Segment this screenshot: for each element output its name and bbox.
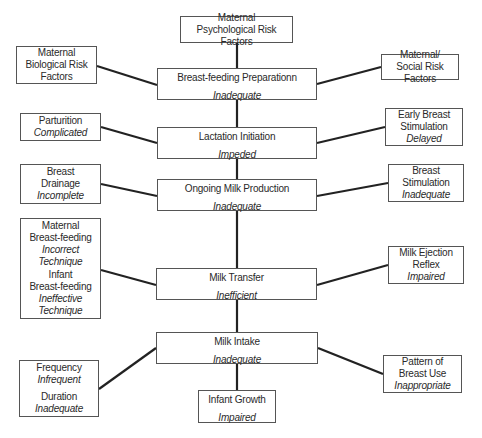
- box-title: Milk Transfer: [209, 272, 264, 284]
- box-label: Early Breast: [398, 109, 450, 121]
- box-title: Ongoing Milk Production: [185, 183, 289, 195]
- box-label: Reflex: [412, 259, 439, 271]
- box-status: Inadequate: [35, 403, 83, 415]
- ongoing-milk-production-box: Ongoing Milk Production Inadequate: [157, 179, 317, 211]
- breastfeeding-technique-box: Maternal Breast-feeding Incorrect Techni…: [20, 218, 101, 319]
- breastfeeding-preparation-box: Breast-feeding Preparationn Inadequate: [157, 68, 317, 100]
- frequency-duration-box: Frequency Infrequent Duration Inadequate: [19, 360, 99, 417]
- box-status: Inadequate: [213, 354, 261, 366]
- box-status: Delayed: [406, 133, 441, 145]
- box-label: Biological Risk: [25, 59, 87, 71]
- box-status: Inefficient: [216, 290, 257, 302]
- box-label: Breast-feeding: [29, 232, 91, 244]
- box-title: Duration: [41, 391, 77, 403]
- box-status: Impeded: [218, 149, 256, 161]
- box-title: Infant Growth: [208, 394, 265, 406]
- box-title: Lactation Initiation: [199, 131, 276, 143]
- box-label: Breast-feeding: [29, 281, 91, 293]
- box-label: Stimulation: [400, 121, 447, 133]
- breast-drainage-box: Breast Drainage Incomplete: [20, 164, 101, 204]
- box-status: Inappropriate: [394, 380, 450, 392]
- box-status: Inadequate: [402, 189, 450, 201]
- box-label: Drainage: [41, 178, 80, 190]
- box-label: Stimulation: [402, 177, 449, 189]
- box-status: Technique: [39, 305, 83, 317]
- box-label: Breast: [47, 166, 75, 178]
- box-label: Milk Ejection: [399, 247, 453, 259]
- breast-stimulation-box: Breast Stimulation Inadequate: [388, 164, 464, 202]
- box-label: Factors: [41, 71, 73, 83]
- box-label: Psychological Risk Factors: [184, 24, 289, 48]
- milk-intake-box: Milk Intake Inadequate: [156, 332, 318, 364]
- box-status: Incomplete: [37, 190, 84, 202]
- box-status: Complicated: [34, 127, 87, 139]
- box-title: Parturition: [39, 115, 82, 127]
- box-title: Frequency: [36, 362, 81, 374]
- box-status: Inadequate: [213, 201, 261, 213]
- box-label: Social Risk Factors: [385, 61, 455, 85]
- maternal-psychological-risk-factors-box: Maternal Psychological Risk Factors: [180, 16, 293, 43]
- box-label: Infant: [49, 269, 73, 281]
- parturition-box: Parturition Complicated: [20, 113, 101, 141]
- box-status: Inadequate: [213, 90, 261, 102]
- box-title: Milk Intake: [214, 336, 260, 348]
- box-status: Impaired: [407, 271, 444, 283]
- box-label: Maternal: [218, 12, 255, 24]
- early-breast-stimulation-box: Early Breast Stimulation Delayed: [385, 108, 463, 146]
- box-label: Pattern of: [402, 356, 443, 368]
- box-label: Maternal: [38, 47, 75, 59]
- pattern-of-breast-use-box: Pattern of Breast Use Inappropriate: [383, 355, 462, 393]
- box-label: Breast Use: [399, 368, 446, 380]
- box-label: Breast: [412, 165, 440, 177]
- box-status: Impaired: [218, 412, 255, 424]
- box-status: Infrequent: [37, 374, 80, 386]
- box-label: Maternal: [42, 220, 79, 232]
- milk-ejection-reflex-box: Milk Ejection Reflex Impaired: [388, 246, 464, 284]
- milk-transfer-box: Milk Transfer Inefficient: [156, 268, 317, 300]
- lactation-initiation-box: Lactation Initiation Impeded: [157, 127, 317, 159]
- maternal-biological-risk-factors-box: Maternal Biological Risk Factors: [16, 46, 97, 84]
- box-status: Ineffective: [39, 293, 82, 305]
- maternal-social-risk-factors-box: Maternal/ Social Risk Factors: [381, 54, 459, 80]
- infant-growth-box: Infant Growth Impaired: [198, 390, 276, 423]
- box-status: Incorrect: [42, 244, 79, 256]
- box-title: Breast-feeding Preparationn: [177, 72, 297, 84]
- box-status: Technique: [39, 256, 83, 268]
- box-label: Maternal/: [400, 49, 440, 61]
